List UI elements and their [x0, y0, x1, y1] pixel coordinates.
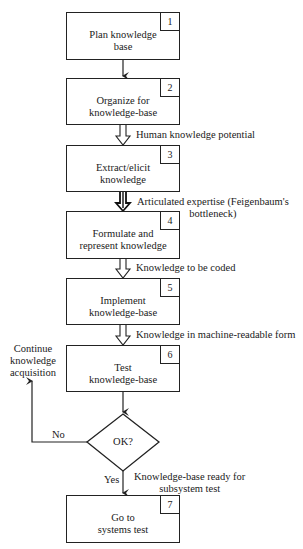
flow-label-to-be-coded: Knowledge to be coded: [136, 262, 235, 274]
bold-arrow-3-4: [116, 192, 130, 211]
step-box-2: 2 Organize for knowledge-base: [66, 78, 180, 125]
double-arrow-4-5: [116, 258, 130, 278]
yes-label: Yes: [104, 474, 119, 486]
step-label: Formulate and represent knowledge: [67, 228, 179, 252]
no-label: No: [52, 429, 65, 441]
flow-label-human-knowledge: Human knowledge potential: [136, 129, 255, 141]
double-arrow-2-3: [116, 124, 130, 145]
step-label: Organize for knowledge-base: [67, 95, 179, 119]
decision-label: OK?: [105, 436, 141, 447]
step-label: Extract/elicit knowledge: [67, 162, 179, 186]
flow-label-articulated-expertise: Articulated expertise (Feigenbaum's bott…: [137, 196, 289, 220]
step-box-6: 6 Test knowledge-base: [66, 345, 180, 392]
double-arrow-5-6: [116, 325, 130, 345]
step-label: Test knowledge-base: [67, 362, 179, 386]
flow-label-machine-readable: Knowledge in machine-readable form: [136, 329, 295, 341]
loop-label-continue-acquisition: Continue knowledge acquisition: [8, 343, 58, 379]
step-label: Implement knowledge-base: [67, 295, 179, 319]
step-box-5: 5 Implement knowledge-base: [66, 278, 180, 325]
flow-label-subsystem-ready: Knowledge-base ready for subsystem test: [134, 471, 245, 495]
step-label: Plan knowledge base: [67, 29, 179, 53]
step-box-3: 3 Extract/elicit knowledge: [66, 145, 180, 192]
step-box-1: 1 Plan knowledge base: [66, 12, 180, 60]
step-box-7: 7 Go to systems test: [66, 495, 180, 543]
step-label: Go to systems test: [67, 512, 179, 536]
